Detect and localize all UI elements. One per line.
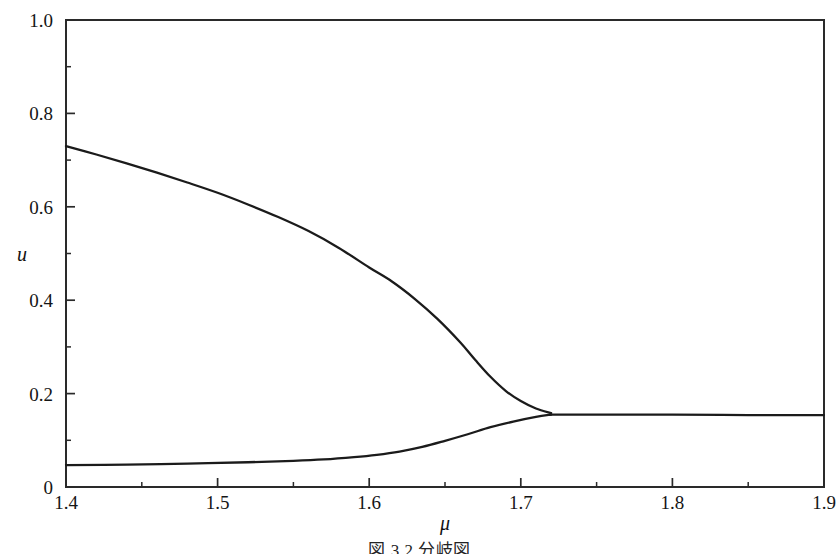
y-axis-title: u — [17, 243, 27, 265]
y-tick-label: 1.0 — [29, 10, 53, 31]
y-tick-label: 0.4 — [29, 290, 53, 311]
y-tick-label: 0.6 — [29, 197, 53, 218]
x-tick-label: 1.6 — [357, 492, 381, 513]
x-tick-label: 1.4 — [54, 492, 78, 513]
x-tick-label: 1.9 — [812, 492, 836, 513]
y-tick-label: 0.2 — [29, 384, 53, 405]
y-tick-label: 0.8 — [29, 103, 53, 124]
figure-root: 1.41.51.61.71.81.9 00.20.40.60.81.0 u μ … — [0, 0, 839, 554]
chart-background — [0, 0, 839, 554]
x-axis-title: μ — [439, 512, 450, 535]
curve-merged-branch — [551, 415, 824, 416]
x-tick-label: 1.8 — [661, 492, 685, 513]
bifurcation-diagram-chart: 1.41.51.61.71.81.9 00.20.40.60.81.0 u μ — [0, 0, 839, 554]
y-tick-label: 0 — [44, 477, 54, 498]
x-tick-label: 1.7 — [509, 492, 533, 513]
figure-caption: 図 3.2 分岐図 — [0, 540, 839, 554]
x-tick-label: 1.5 — [206, 492, 230, 513]
